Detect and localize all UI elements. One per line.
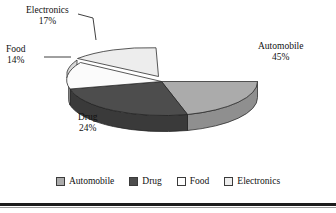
legend-item-drug: Drug bbox=[129, 176, 162, 186]
slice-label-automobile-percent: 45% bbox=[258, 52, 303, 63]
legend-item-food: Food bbox=[177, 176, 210, 186]
legend-swatch-food bbox=[177, 177, 186, 186]
slice-label-drug-percent: 24% bbox=[78, 123, 98, 134]
slice-label-drug: Drug 24% bbox=[78, 112, 98, 134]
bottom-divider bbox=[0, 203, 336, 206]
legend-swatch-drug bbox=[129, 177, 138, 186]
slice-label-electronics: Electronics 17% bbox=[26, 5, 69, 27]
slice-label-electronics-percent: 17% bbox=[26, 16, 69, 27]
slice-label-food-name: Food bbox=[6, 44, 26, 54]
pie-chart-figure: Electronics 17% Food 14% Automobile 45% … bbox=[0, 0, 336, 213]
slice-label-food-percent: 14% bbox=[6, 55, 26, 66]
chart-plot-area: Electronics 17% Food 14% Automobile 45% … bbox=[0, 0, 336, 165]
chart-legend: Automobile Drug Food Electronics bbox=[0, 172, 336, 190]
slice-label-food: Food 14% bbox=[6, 44, 26, 66]
legend-label-food: Food bbox=[190, 176, 210, 186]
legend-item-automobile: Automobile bbox=[56, 176, 114, 186]
legend-label-drug: Drug bbox=[142, 176, 162, 186]
slice-label-automobile-name: Automobile bbox=[258, 41, 303, 51]
slice-label-automobile: Automobile 45% bbox=[258, 41, 303, 63]
legend-item-electronics: Electronics bbox=[224, 176, 280, 186]
legend-swatch-electronics bbox=[224, 177, 233, 186]
slice-label-electronics-name: Electronics bbox=[26, 5, 69, 15]
legend-label-electronics: Electronics bbox=[237, 176, 280, 186]
bottom-divider-shadow bbox=[0, 207, 336, 208]
slice-label-drug-name: Drug bbox=[78, 112, 98, 122]
leader-line-electronics bbox=[78, 14, 96, 40]
legend-label-automobile: Automobile bbox=[69, 176, 114, 186]
legend-swatch-automobile bbox=[56, 177, 65, 186]
